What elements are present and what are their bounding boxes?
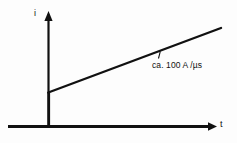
slope-annotation-label: ca. 100 A /µs xyxy=(152,61,202,70)
x-axis-label: t xyxy=(220,120,223,129)
y-axis-label: i xyxy=(34,9,36,18)
figure-canvas xyxy=(0,0,237,143)
current-ramp-figure: i t ca. 100 A /µs xyxy=(0,0,237,143)
y-axis-arrowhead xyxy=(44,11,52,21)
x-axis-arrowhead xyxy=(208,122,217,131)
